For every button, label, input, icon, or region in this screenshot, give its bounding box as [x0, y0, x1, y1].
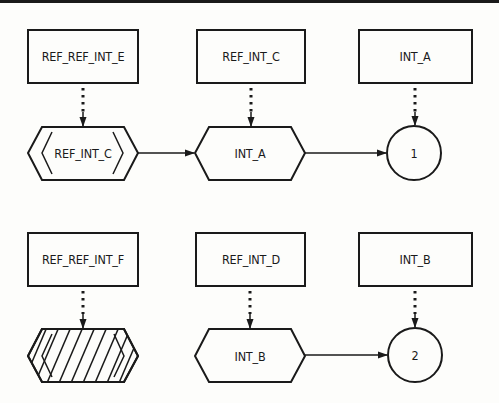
hexagon-label: INT_B — [235, 349, 266, 364]
row-1: REF_REF_INT_E REF_INT_C INT_A REF_INT_C … — [28, 30, 472, 180]
box-label: REF_INT_C — [222, 49, 280, 64]
connector-circle-1: 1 — [387, 126, 441, 180]
row-2: REF_REF_INT_F REF_INT_D INT_B — [20, 233, 472, 390]
circle-label: 1 — [411, 146, 418, 161]
box-ref-ref-int-e: REF_REF_INT_E — [28, 30, 138, 83]
hexagon-int-a: INT_A — [195, 127, 305, 180]
box-ref-ref-int-f: REF_REF_INT_F — [28, 233, 138, 286]
hexagon-int-b: INT_B — [195, 329, 305, 382]
box-int-b: INT_B — [359, 233, 472, 286]
hexagon-hatched — [20, 320, 158, 390]
hexagon-label: INT_A — [235, 146, 266, 161]
box-label: REF_REF_INT_F — [42, 252, 124, 267]
hexagon-label: REF_INT_C — [54, 146, 112, 161]
box-label: INT_B — [400, 252, 431, 267]
box-label: INT_A — [400, 49, 431, 64]
connector-circle-2: 2 — [388, 328, 442, 382]
box-ref-int-c: REF_INT_C — [197, 30, 305, 83]
box-int-a: INT_A — [359, 30, 472, 83]
flow-diagram: REF_REF_INT_E REF_INT_C INT_A REF_INT_C … — [0, 0, 499, 403]
circle-label: 2 — [412, 348, 419, 363]
hexagon-ref-int-c-bracketed: REF_INT_C — [28, 127, 138, 180]
box-label: REF_REF_INT_E — [42, 49, 125, 64]
box-ref-int-d: REF_INT_D — [196, 233, 305, 286]
box-label: REF_INT_D — [222, 252, 280, 267]
